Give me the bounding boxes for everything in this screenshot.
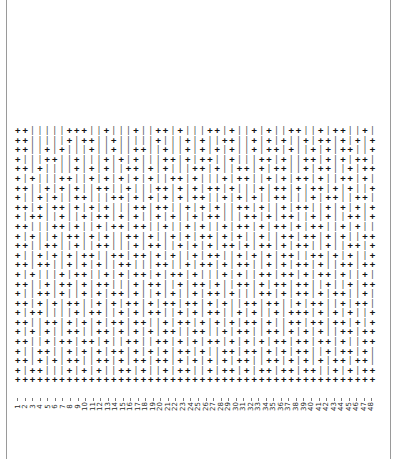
- plus-glyph: +: [228, 375, 235, 385]
- plus-glyph: +: [206, 375, 213, 385]
- tick-mark: [62, 398, 63, 401]
- plus-glyph: +: [191, 375, 198, 385]
- matrix-row: ++++++++++++++++++++++++++++++++++++++++…: [14, 375, 376, 385]
- plus-glyph: +: [369, 375, 376, 385]
- tick-mark: [243, 398, 244, 401]
- plus-glyph: +: [29, 375, 36, 385]
- plus-glyph: +: [199, 375, 206, 385]
- plus-glyph: +: [221, 375, 228, 385]
- plus-glyph: +: [14, 375, 21, 385]
- plus-glyph: +: [36, 375, 43, 385]
- document-page: ++|||||+++||+|||+||++|+|||++|+||+|+||++|…: [0, 0, 398, 459]
- tick-mark: [221, 398, 222, 401]
- plus-glyph: +: [236, 375, 243, 385]
- tick-mark: [356, 398, 357, 401]
- plus-glyph: +: [347, 375, 354, 385]
- tick-mark: [258, 398, 259, 401]
- plus-glyph: +: [117, 375, 124, 385]
- tick-mark: [311, 398, 312, 401]
- tick-mark: [138, 398, 139, 401]
- plus-glyph: +: [169, 375, 176, 385]
- plus-glyph: +: [214, 375, 221, 385]
- tick-mark: [78, 398, 79, 401]
- plus-glyph: +: [184, 375, 191, 385]
- tick-mark: [130, 398, 131, 401]
- tick-mark: [206, 398, 207, 401]
- tick-mark: [108, 398, 109, 401]
- tick-mark: [198, 398, 199, 401]
- tick-mark: [93, 398, 94, 401]
- tick-mark: [47, 398, 48, 401]
- plus-glyph: +: [125, 375, 132, 385]
- plus-glyph: +: [302, 375, 309, 385]
- tick-mark: [334, 398, 335, 401]
- plus-glyph: +: [51, 375, 58, 385]
- tick-label: 23: [180, 402, 187, 411]
- plus-glyph: +: [177, 375, 184, 385]
- tick-mark: [213, 398, 214, 401]
- tick-mark: [341, 398, 342, 401]
- plus-glyph: +: [140, 375, 147, 385]
- tick-mark: [281, 398, 282, 401]
- plus-glyph: +: [280, 375, 287, 385]
- tick-mark: [251, 398, 252, 401]
- tick-mark: [319, 398, 320, 401]
- plus-glyph: +: [354, 375, 361, 385]
- plus-glyph: +: [361, 375, 368, 385]
- tick-mark: [153, 398, 154, 401]
- plus-glyph: +: [295, 375, 302, 385]
- tick-mark: [364, 398, 365, 401]
- plus-glyph: +: [317, 375, 324, 385]
- tick-mark: [115, 398, 116, 401]
- plus-glyph: +: [324, 375, 331, 385]
- tick-label: 40: [308, 402, 315, 411]
- plus-glyph: +: [332, 375, 339, 385]
- page-border-left: [6, 0, 7, 459]
- tick-mark: [326, 398, 327, 401]
- x-tick: 48: [368, 398, 376, 444]
- glyph-matrix: ++|||||+++||+|||+||++|+|||++|+||+|+||++|…: [14, 126, 376, 382]
- tick-mark: [228, 398, 229, 401]
- tick-label: 38: [293, 402, 300, 411]
- tick-mark: [100, 398, 101, 401]
- tick-mark: [303, 398, 304, 401]
- tick-mark: [266, 398, 267, 401]
- tick-mark: [349, 398, 350, 401]
- tick-mark: [55, 398, 56, 401]
- tick-mark: [123, 398, 124, 401]
- tick-mark: [168, 398, 169, 401]
- plus-glyph: +: [44, 375, 51, 385]
- x-axis-ticks: 1234567891011121314151617181920212223242…: [14, 398, 376, 444]
- tick-mark: [175, 398, 176, 401]
- tick-label: 48: [368, 402, 375, 411]
- tick-mark: [288, 398, 289, 401]
- tick-mark: [85, 398, 86, 401]
- tick-mark: [160, 398, 161, 401]
- plus-glyph: +: [287, 375, 294, 385]
- tick-mark: [32, 398, 33, 401]
- tick-mark: [190, 398, 191, 401]
- plus-glyph: +: [81, 375, 88, 385]
- page-border-right: [390, 0, 391, 459]
- plus-glyph: +: [88, 375, 95, 385]
- plus-glyph: +: [73, 375, 80, 385]
- tick-mark: [296, 398, 297, 401]
- plus-glyph: +: [265, 375, 272, 385]
- plus-glyph: +: [273, 375, 280, 385]
- plus-glyph: +: [162, 375, 169, 385]
- plus-glyph: +: [21, 375, 28, 385]
- tick-mark: [145, 398, 146, 401]
- tick-mark: [40, 398, 41, 401]
- plus-glyph: +: [147, 375, 154, 385]
- plus-glyph: +: [251, 375, 258, 385]
- plus-glyph: +: [95, 375, 102, 385]
- plus-glyph: +: [132, 375, 139, 385]
- plus-glyph: +: [110, 375, 117, 385]
- tick-mark: [17, 398, 18, 401]
- plus-glyph: +: [103, 375, 110, 385]
- tick-mark: [183, 398, 184, 401]
- plus-glyph: +: [243, 375, 250, 385]
- plus-glyph: +: [58, 375, 65, 385]
- plus-glyph: +: [154, 375, 161, 385]
- tick-mark: [236, 398, 237, 401]
